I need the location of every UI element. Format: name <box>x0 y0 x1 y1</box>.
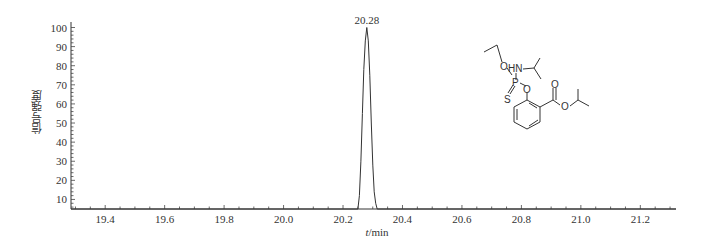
x-tick-label: 21.0 <box>571 213 591 225</box>
atom-P: P <box>512 77 519 88</box>
y-tick-label: 40 <box>56 136 68 148</box>
y-tick-label: 50 <box>56 117 68 129</box>
x-tick-label: 20.0 <box>274 213 294 225</box>
y-tick-label: 80 <box>56 60 68 72</box>
chemical-structure <box>484 45 589 129</box>
x-tick-label: 20.4 <box>393 213 413 225</box>
x-tick-label: 21.2 <box>631 213 650 225</box>
y-tick-label: 30 <box>56 155 68 167</box>
y-tick-label: 60 <box>56 98 68 110</box>
x-axis-label: t/min <box>365 226 389 238</box>
y-tick-label: 90 <box>56 41 68 53</box>
x-ticks: 19.419.619.820.020.220.420.620.821.021.2 <box>75 205 670 225</box>
x-tick-label: 20.8 <box>512 213 532 225</box>
atom-O-ester: O <box>561 101 569 112</box>
peak-label: 20.28 <box>354 14 379 26</box>
x-tick-label: 19.4 <box>96 213 116 225</box>
x-tick-label: 19.6 <box>155 213 175 225</box>
chromatogram-trace <box>71 28 676 210</box>
x-tick-label: 20.6 <box>452 213 472 225</box>
atom-O-aryl: O <box>523 84 531 95</box>
x-axis-label-unit: /min <box>368 226 389 238</box>
y-tick-label: 10 <box>56 193 68 205</box>
atom-S: S <box>504 94 511 105</box>
atom-HN: HN <box>508 63 522 74</box>
y-tick-label: 70 <box>56 79 68 91</box>
x-tick-label: 19.8 <box>214 213 234 225</box>
atom-O-carbonyl: O <box>551 79 559 90</box>
x-tick-label: 20.2 <box>333 213 352 225</box>
atom-O-ethoxy: O <box>500 61 508 72</box>
y-tick-label: 20 <box>56 174 68 186</box>
chromatogram-chart: 102030405060708090100 19.419.619.820.020… <box>0 0 707 245</box>
y-tick-label: 100 <box>51 22 68 34</box>
